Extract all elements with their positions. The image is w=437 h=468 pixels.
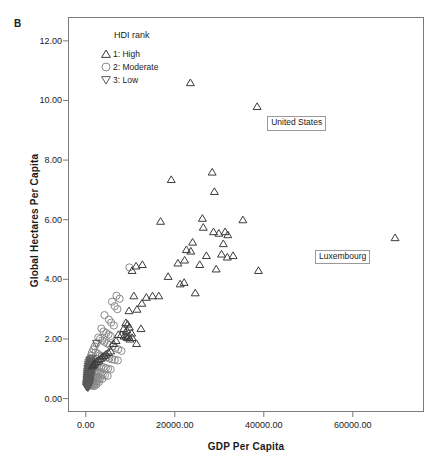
annotation-label: United States <box>267 116 326 131</box>
legend: HDI rank 1: High2: Moderate3: Low <box>100 30 158 87</box>
legend-entry-1: 1: High <box>100 48 158 60</box>
circle-icon <box>100 61 113 73</box>
legend-entry-label: 2: Moderate <box>113 62 158 72</box>
y-tick-label: 0.00 <box>16 394 62 404</box>
legend-entry-label: 1: High <box>113 49 140 59</box>
legend-entries: 1: High2: Moderate3: Low <box>100 48 158 86</box>
legend-title: HDI rank <box>114 30 158 40</box>
y-axis-title: Global Hectares Per Capita <box>29 91 40 351</box>
triangle-down-icon <box>100 74 113 86</box>
legend-entry-2: 2: Moderate <box>100 61 158 73</box>
figure-panel: B 0.002.004.006.008.0010.0012.00 0.00200… <box>0 0 437 468</box>
x-tick-label: 40000.00 <box>245 420 283 430</box>
legend-entry-label: 3: Low <box>113 75 138 85</box>
x-axis-title: GDP Per Capita <box>68 441 424 452</box>
x-tick-label: 0.00 <box>77 420 95 430</box>
legend-entry-3: 3: Low <box>100 74 158 86</box>
x-tick-label: 60000.00 <box>334 420 372 430</box>
annotation-label: Luxembourg <box>315 250 370 265</box>
y-tick-label: 12.00 <box>16 36 62 46</box>
triangle-up-icon <box>100 48 113 60</box>
x-tick-label: 20000.00 <box>156 420 194 430</box>
